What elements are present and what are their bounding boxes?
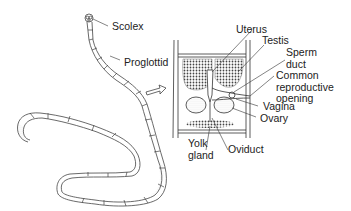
uterus-shape	[207, 70, 213, 102]
label-vagina: Vagina	[263, 101, 295, 113]
label-ovary: Ovary	[260, 113, 288, 125]
body-shading-lower	[150, 162, 164, 196]
label-testis: Testis	[262, 35, 289, 47]
tapeworm-diagram	[0, 0, 351, 211]
label-sperm-duct: Sperm duct	[286, 47, 317, 70]
testis-shape-right	[215, 59, 243, 87]
arrow-icon	[146, 85, 166, 95]
label-oviduct: Oviduct	[228, 144, 264, 156]
ovary-left	[186, 97, 206, 113]
label-yolk-gland: Yolk gland	[188, 138, 214, 161]
tapeworm-body	[17, 14, 166, 206]
body-outline-inner	[23, 22, 166, 206]
scolex-shape	[85, 14, 93, 22]
label-proglottid: Proglottid	[124, 57, 168, 69]
body-outline-outer	[17, 22, 161, 202]
label-scolex: Scolex	[112, 21, 144, 33]
